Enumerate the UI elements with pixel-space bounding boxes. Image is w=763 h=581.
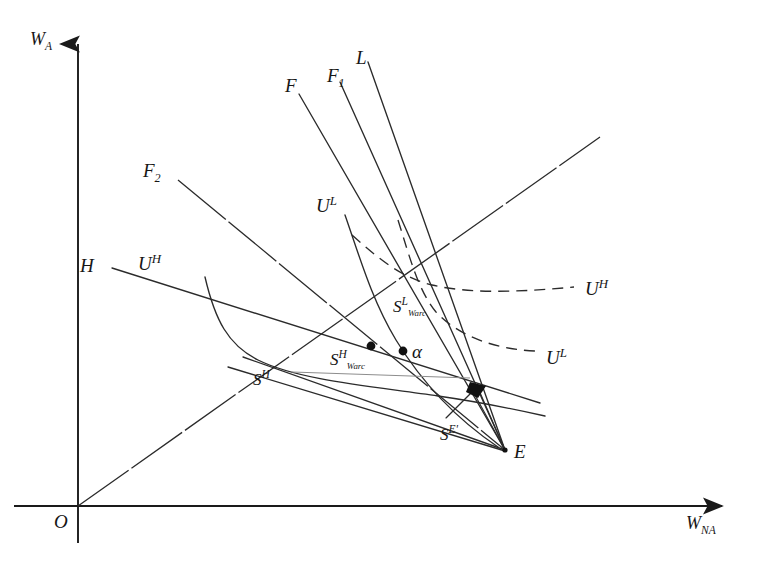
curve-label-F1: F1 (327, 66, 345, 89)
point-label-S-H-Warc-superscript-subscript: Warc (347, 361, 365, 371)
x-axis-label-base: W (686, 513, 701, 533)
curve-label-F2: F2 (143, 161, 161, 184)
origin-label-base: O (54, 511, 68, 532)
curve-label-F2-base: F (143, 160, 155, 181)
curve-F (299, 94, 505, 450)
curve-node-to-E-b (478, 388, 505, 450)
point-label-E: E (514, 442, 526, 461)
curve-label-UH-dashed: UH (585, 278, 608, 298)
segment-SH-to-E (243, 357, 505, 450)
curve-label-F-base: F (285, 75, 297, 96)
point-label-S-H-Warc: SHWarc (330, 349, 365, 371)
equilibrium-point-E (502, 447, 507, 452)
point-label-S-E-prime-base: S (440, 425, 449, 444)
y-axis-label-subscript: A (45, 40, 52, 52)
curve-label-UL-solid-base: U (316, 195, 330, 216)
curve-label-UL-dashed-superscript: L (560, 345, 567, 360)
x-axis-label-subscript: NA (701, 524, 716, 536)
curve-label-F2-subscript: 2 (155, 171, 161, 185)
x-axis-label: WNA (686, 514, 716, 536)
curve-label-UH-solid-superscript: H (152, 251, 161, 266)
point-label-S-E-prime-superscript: E' (449, 423, 459, 436)
curve-H (112, 268, 540, 403)
origin-label: O (54, 512, 68, 531)
point-label-S-L-Warc: SLWarc (393, 296, 426, 318)
curve-label-H: H (80, 256, 94, 275)
curve-F1 (340, 82, 505, 450)
diagram-svg (0, 0, 763, 581)
curve-UL-dashed (398, 220, 536, 351)
y-axis-label: WA (30, 30, 52, 52)
point-label-S-E-prime: SE' (440, 424, 458, 443)
curve-L (368, 62, 505, 450)
curve-UL-solid (345, 215, 498, 447)
point-label-S-H-Warc-base: S (330, 350, 339, 369)
curve-label-UL-solid: UL (316, 195, 337, 215)
curve-label-L-base: L (356, 47, 367, 68)
curve-F2 (178, 180, 505, 450)
point-label-S-H-Warc-superscript: H (339, 348, 347, 361)
point-dot-alpha (399, 347, 408, 356)
curve-label-UL-dashed: UL (546, 347, 567, 367)
curve-label-F1-subscript: 1 (339, 76, 345, 90)
point-label-S-L-Warc-base: S (393, 297, 402, 316)
point-label-alpha-base: α (412, 341, 422, 362)
point-label-E-base: E (514, 441, 526, 462)
point-label-S-H: SH (253, 369, 270, 388)
curve-label-H-base: H (80, 255, 94, 276)
curve-label-UH-solid-base: U (138, 253, 152, 274)
curve-label-UH-dashed-base: U (585, 278, 599, 299)
curve-label-F: F (285, 76, 297, 95)
y-axis-label-base: W (30, 29, 45, 49)
point-label-alpha: α (412, 342, 422, 361)
point-label-S-L-Warc-superscript: L (402, 295, 408, 308)
curve-label-UH-dashed-superscript: H (599, 276, 608, 291)
curve-label-UL-solid-superscript: L (330, 193, 337, 208)
point-label-S-H-superscript: H (262, 368, 270, 381)
curve-label-L: L (356, 48, 367, 67)
figure-canvas: WAWNAOLF1FF2HUHULUHULSHSHWarcSLWarcSE'Eα (0, 0, 763, 581)
curve-label-F1-base: F (327, 65, 339, 86)
point-dot-S-H-Warc (367, 342, 376, 351)
point-label-S-H-base: S (253, 370, 262, 389)
point-label-S-L-Warc-superscript-subscript: Warc (408, 308, 426, 318)
curve-label-UH-solid: UH (138, 253, 161, 273)
curve-label-UL-dashed-base: U (546, 347, 560, 368)
